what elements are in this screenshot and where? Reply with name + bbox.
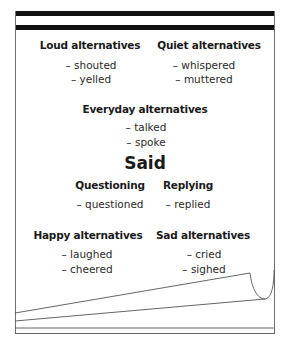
page-curl-icon <box>0 0 288 348</box>
notepad-page: Loud alternatives – shouted – yelled Qui… <box>0 0 288 348</box>
